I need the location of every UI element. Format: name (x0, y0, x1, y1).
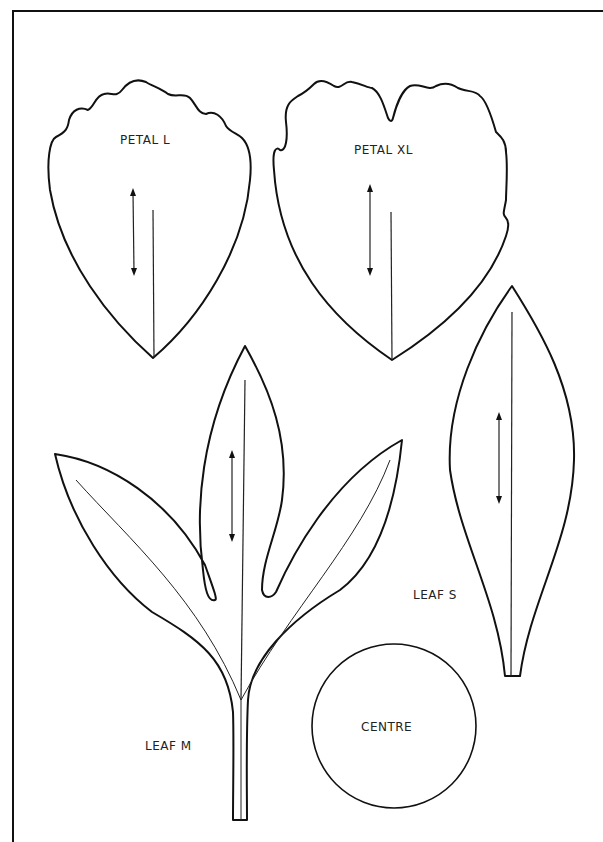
petal-xl-label: PETAL XL (354, 143, 413, 157)
petal-xl-shape (273, 81, 508, 360)
leaf-m-shape (55, 346, 402, 820)
grain-arrow-icon (367, 184, 373, 276)
leaf-m-label: LEAF M (145, 739, 192, 753)
petal-l-shape (48, 80, 250, 358)
template-canvas (0, 0, 603, 842)
petal-l-label: PETAL L (120, 133, 170, 147)
centre-label: CENTRE (361, 720, 412, 734)
grain-arrow-icon (496, 412, 502, 504)
page-border (13, 11, 603, 842)
grain-arrow-icon (130, 188, 137, 276)
grain-arrow-icon (229, 450, 235, 542)
leaf-s-shape (450, 286, 574, 676)
leaf-s-label: LEAF S (413, 588, 457, 602)
